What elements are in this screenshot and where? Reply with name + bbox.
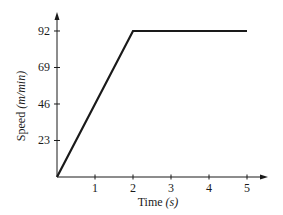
y-axis-label: Speed (m/min) <box>14 71 28 141</box>
y-tick-label: 69 <box>38 60 50 74</box>
y-axis-arrow-icon <box>55 12 60 20</box>
x-tick-label: 5 <box>244 181 250 195</box>
chart-container: 1234523466992 Time (s)Speed (m/min) <box>0 0 283 215</box>
speed-line <box>57 31 247 177</box>
ticks: 1234523466992 <box>38 24 250 195</box>
x-tick-label: 1 <box>92 181 98 195</box>
x-axis-arrow-icon <box>260 175 268 180</box>
y-tick-label: 92 <box>38 24 50 38</box>
x-tick-label: 2 <box>130 181 136 195</box>
data-series <box>57 31 247 177</box>
x-tick-label: 4 <box>206 181 212 195</box>
speed-time-chart: 1234523466992 Time (s)Speed (m/min) <box>0 0 283 215</box>
axes <box>55 12 269 180</box>
x-axis-label: Time (s) <box>138 195 179 209</box>
y-tick-label: 23 <box>38 133 50 147</box>
x-tick-label: 3 <box>168 181 174 195</box>
y-tick-label: 46 <box>38 97 50 111</box>
